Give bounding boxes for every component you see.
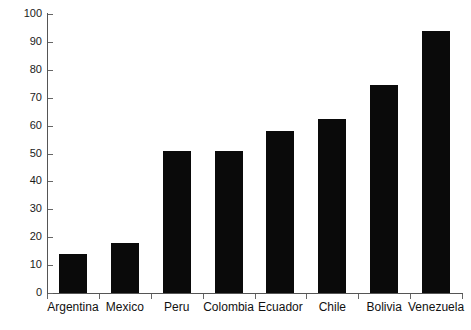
x-tick-mark	[462, 294, 463, 299]
y-tick-label: 10	[16, 259, 42, 270]
y-tick-label: 20	[16, 231, 42, 242]
bar	[266, 131, 294, 293]
bar	[370, 85, 398, 293]
x-tick-mark	[255, 294, 256, 299]
y-tick-label: 60	[16, 120, 42, 131]
y-tick-label: 70	[16, 92, 42, 103]
x-tick-mark	[358, 294, 359, 299]
bar	[111, 243, 139, 293]
bar	[59, 254, 87, 293]
bar-series	[47, 14, 462, 293]
x-tick-mark	[410, 294, 411, 299]
bar	[163, 151, 191, 293]
y-tick-label: 100	[16, 8, 42, 19]
y-tick-label: 90	[16, 36, 42, 47]
y-tick-label: 80	[16, 64, 42, 75]
x-tick-mark	[151, 294, 152, 299]
x-axis-labels: ArgentinaMexicoPeruColombiaEcuadorChileB…	[47, 300, 462, 320]
bar	[422, 31, 450, 293]
y-tick-label: 30	[16, 203, 42, 214]
x-tick-mark	[203, 294, 204, 299]
x-tick-mark	[99, 294, 100, 299]
y-tick-mark	[48, 293, 53, 294]
bar	[318, 119, 346, 293]
bar-chart: 0102030405060708090100 ArgentinaMexicoPe…	[0, 0, 471, 330]
y-tick-label: 0	[16, 287, 42, 298]
y-tick-label: 40	[16, 175, 42, 186]
y-tick-label: 50	[16, 148, 42, 159]
x-tick-mark	[306, 294, 307, 299]
bar	[215, 151, 243, 293]
x-tick-label: Venezuela	[404, 300, 468, 314]
x-tick-mark	[47, 294, 48, 299]
